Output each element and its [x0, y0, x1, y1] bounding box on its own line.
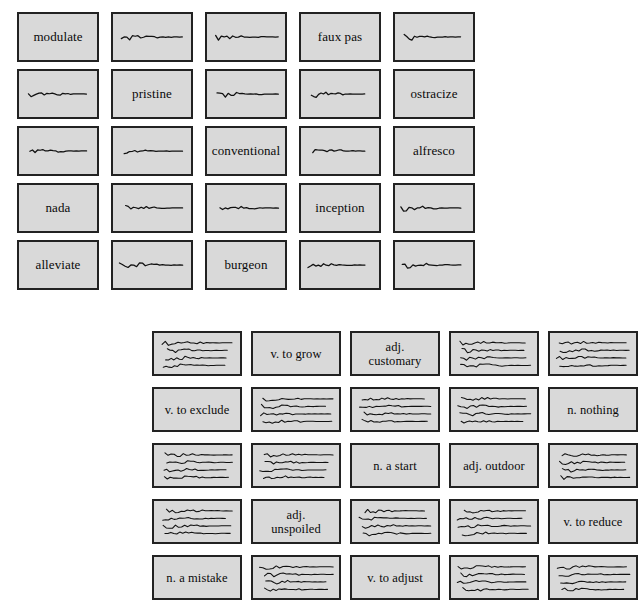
- definition-scribble-icon: [550, 445, 636, 486]
- word-card-text[interactable]: alfresco: [393, 126, 475, 176]
- word-card-text[interactable]: ostracize: [393, 69, 475, 119]
- definition-card-text[interactable]: v. to reduce: [548, 499, 638, 544]
- word-card-label: alfresco: [411, 144, 457, 159]
- definition-scribble-icon: [154, 445, 240, 486]
- word-scribble-icon: [207, 14, 285, 60]
- word-card-blank[interactable]: [205, 12, 287, 62]
- definition-scribble-icon: [253, 445, 339, 486]
- word-card-label: ostracize: [408, 87, 459, 102]
- definition-card-text[interactable]: adj.unspoiled: [251, 499, 341, 544]
- word-card-text[interactable]: nada: [17, 183, 99, 233]
- definition-card-blank[interactable]: [251, 443, 341, 488]
- definition-card-label: adj.unspoiled: [269, 508, 323, 536]
- word-card-grid: modulatefaux paspristineostracizeconvent…: [17, 12, 475, 290]
- word-card-blank[interactable]: [17, 69, 99, 119]
- word-card-blank[interactable]: [393, 12, 475, 62]
- word-scribble-icon: [113, 14, 191, 60]
- word-card-text[interactable]: burgeon: [205, 240, 287, 290]
- definition-card-blank[interactable]: [548, 443, 638, 488]
- definition-card-blank[interactable]: [350, 387, 440, 432]
- word-card-label: alleviate: [34, 258, 83, 273]
- definition-card-label: n. a start: [371, 459, 419, 473]
- definition-card-text[interactable]: n. nothing: [548, 387, 638, 432]
- definition-card-blank[interactable]: [251, 387, 341, 432]
- word-card-text[interactable]: faux pas: [299, 12, 381, 62]
- definition-card-blank[interactable]: [449, 499, 539, 544]
- definition-card-blank[interactable]: [548, 555, 638, 600]
- definition-card-label: adj. outdoor: [461, 459, 527, 473]
- word-scribble-icon: [301, 242, 379, 288]
- word-scribble-icon: [395, 185, 473, 231]
- word-card-blank[interactable]: [111, 240, 193, 290]
- word-scribble-icon: [395, 242, 473, 288]
- word-card-text[interactable]: inception: [299, 183, 381, 233]
- word-card-blank[interactable]: [205, 69, 287, 119]
- definition-card-text[interactable]: v. to adjust: [350, 555, 440, 600]
- definition-card-blank[interactable]: [350, 499, 440, 544]
- definition-card-text[interactable]: v. to grow: [251, 331, 341, 376]
- word-card-label: modulate: [31, 30, 84, 45]
- definition-card-grid: v. to growadj.customaryv. to excluden. n…: [152, 331, 638, 600]
- definition-card-label: n. nothing: [565, 403, 621, 417]
- word-scribble-icon: [301, 128, 379, 174]
- definition-card-blank[interactable]: [152, 443, 242, 488]
- definition-card-blank[interactable]: [449, 387, 539, 432]
- word-card-blank[interactable]: [111, 12, 193, 62]
- definition-scribble-icon: [451, 557, 537, 598]
- word-card-blank[interactable]: [299, 240, 381, 290]
- definition-scribble-icon: [451, 501, 537, 542]
- definition-card-text[interactable]: n. a start: [350, 443, 440, 488]
- word-card-blank[interactable]: [205, 183, 287, 233]
- word-scribble-icon: [395, 14, 473, 60]
- definition-card-label: adj.customary: [367, 340, 424, 368]
- definition-card-text[interactable]: n. a mistake: [152, 555, 242, 600]
- definition-card-label: v. to adjust: [365, 571, 425, 585]
- word-card-label: conventional: [210, 144, 282, 159]
- definition-card-label: n. a mistake: [164, 571, 229, 585]
- definition-card-blank[interactable]: [449, 555, 539, 600]
- word-card-text[interactable]: modulate: [17, 12, 99, 62]
- definition-card-text[interactable]: adj. outdoor: [449, 443, 539, 488]
- definition-card-text[interactable]: adj.customary: [350, 331, 440, 376]
- word-card-blank[interactable]: [299, 69, 381, 119]
- word-scribble-icon: [19, 128, 97, 174]
- word-scribble-icon: [113, 242, 191, 288]
- definition-scribble-icon: [253, 389, 339, 430]
- word-card-blank[interactable]: [299, 126, 381, 176]
- word-card-label: burgeon: [222, 258, 269, 273]
- definition-scribble-icon: [352, 501, 438, 542]
- definition-card-blank[interactable]: [548, 331, 638, 376]
- word-card-blank[interactable]: [17, 126, 99, 176]
- word-card-text[interactable]: pristine: [111, 69, 193, 119]
- word-card-blank[interactable]: [111, 183, 193, 233]
- definition-scribble-icon: [154, 501, 240, 542]
- definition-scribble-icon: [352, 389, 438, 430]
- word-card-blank[interactable]: [393, 183, 475, 233]
- word-scribble-icon: [301, 71, 379, 117]
- definition-scribble-icon: [550, 557, 636, 598]
- definition-card-blank[interactable]: [152, 499, 242, 544]
- word-scribble-icon: [19, 71, 97, 117]
- word-card-label: faux pas: [316, 30, 364, 45]
- word-card-blank[interactable]: [393, 240, 475, 290]
- definition-card-blank[interactable]: [449, 331, 539, 376]
- definition-card-label: v. to exclude: [163, 403, 232, 417]
- definition-card-label: v. to reduce: [561, 515, 624, 529]
- word-card-blank[interactable]: [111, 126, 193, 176]
- word-card-text[interactable]: conventional: [205, 126, 287, 176]
- definition-scribble-icon: [451, 333, 537, 374]
- definition-scribble-icon: [451, 389, 537, 430]
- definition-card-blank[interactable]: [251, 555, 341, 600]
- definition-card-text[interactable]: v. to exclude: [152, 387, 242, 432]
- definition-card-blank[interactable]: [152, 331, 242, 376]
- word-card-label: inception: [313, 201, 366, 216]
- definition-scribble-icon: [253, 557, 339, 598]
- definition-scribble-icon: [550, 333, 636, 374]
- word-scribble-icon: [113, 128, 191, 174]
- definition-scribble-icon: [154, 333, 240, 374]
- word-scribble-icon: [207, 71, 285, 117]
- definition-card-label: v. to grow: [268, 347, 323, 361]
- word-card-label: nada: [44, 201, 73, 216]
- word-card-text[interactable]: alleviate: [17, 240, 99, 290]
- word-card-label: pristine: [130, 87, 174, 102]
